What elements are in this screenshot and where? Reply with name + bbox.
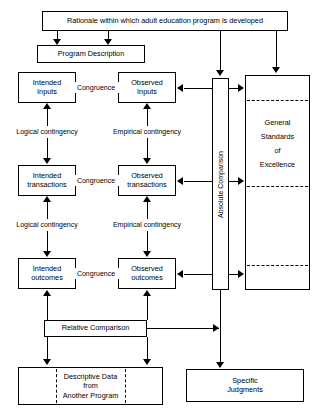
node-program-description: Program Description [37,45,145,63]
arrowhead-intended-transactions-up [43,196,51,202]
arrowhead-observed-transactions-down [143,158,151,164]
node-observed-transactions: Observed transactions [118,165,176,196]
node-relative-comparison-label: Relative Comparison [62,324,130,332]
node-observed-outcomes-line2: outcomes [131,274,163,282]
label-congruence-3-text: Congruence [77,270,115,277]
label-logical-contingency-2: Logical contingency [8,219,86,230]
node-intended-inputs-line2: Inputs [37,88,57,96]
node-intended-outcomes-line2: outcomes [31,274,63,282]
node-observed-transactions-line2: transactions [127,181,166,189]
node-general-standards-line4: Excellence [260,161,295,169]
label-empirical-contingency-1: Empirical contingency [106,126,188,137]
node-absolute-comparison: Absolute Comparison [212,78,229,290]
label-logical-contingency-2-text: Logical contingency [16,221,78,228]
node-intended-transactions-line2: transactions [27,181,66,189]
node-observed-inputs: Observed Inputs [118,72,176,103]
arrowhead-observed-inputs-left [177,84,183,92]
node-descriptive-data-text: Descriptive Data from Another Program [18,367,163,405]
label-empirical-contingency-2-text: Empirical contingency [113,221,181,228]
label-logical-contingency-1-text: Logical contingency [16,128,78,135]
node-descriptive-data-line1: Descriptive Data [64,372,118,381]
label-congruence-1-text: Congruence [77,84,115,91]
edge-observed-outcomes-down [147,231,148,251]
arrowhead-relative-to-observed-outcomes [143,290,151,296]
arrowhead-intended-transactions-down [43,158,51,164]
node-program-description-label: Program Description [58,50,125,58]
arrowhead-relative-to-intended-outcomes [43,290,51,296]
edge-relative-to-observed-outcomes [147,296,148,320]
label-logical-contingency-1: Logical contingency [8,126,86,137]
node-intended-outcomes: Intended outcomes [18,258,76,289]
arrowhead-specific-judgments [216,362,224,368]
node-general-standards-line1: General [265,119,291,127]
diagram-canvas: Rationale within which adult education p… [0,0,321,417]
arrowhead-observed-inputs-up [143,103,151,109]
node-general-standards-line2: Standards [261,133,294,141]
edge-absolute-to-judgments [220,290,221,363]
edge-relative-to-descriptive-b [147,337,148,360]
label-congruence-1: Congruence [70,82,122,93]
node-rationale-label: Rationale within which adult education p… [67,17,263,25]
node-descriptive-data-line3: Another Program [63,391,119,400]
arrowhead-standards-row1 [238,84,244,92]
arrowhead-descriptive-b [143,359,151,365]
descriptive-divider-right [125,369,126,403]
node-intended-inputs: Intended Inputs [18,72,76,103]
label-empirical-contingency-2: Empirical contingency [106,219,188,230]
arrowhead-descriptive-a [43,359,51,365]
arrowhead-observed-transactions-left [177,177,183,185]
edge-relative-to-intended-outcomes [47,296,48,320]
node-intended-transactions: Intended transactions [18,165,76,196]
descriptive-divider-left [56,369,57,403]
arrowhead-observed-outcomes-down [143,251,151,257]
arrowhead-absolute-top [216,70,224,76]
arrowhead-standards-row2 [238,177,244,185]
label-congruence-2-text: Congruence [77,177,115,184]
edge-relative-to-judgments [147,328,219,329]
edge-absolute-to-observed-inputs [184,88,212,89]
arrowhead-standards-top [272,67,280,73]
arrowhead-standards-row3 [238,270,244,278]
arrowhead-observed-transactions-up [143,196,151,202]
standards-divider-2 [247,186,308,187]
standards-divider-3 [247,265,308,266]
node-descriptive-data-line2: from [83,381,98,390]
edge-relative-to-descriptive-a [47,337,48,360]
edge-intended-transactions-down [47,138,48,158]
edge-rationale-to-standards [276,31,277,68]
arrowhead-intended-outcomes-down [43,251,51,257]
node-observed-inputs-line2: Inputs [137,88,157,96]
label-congruence-2: Congruence [70,175,122,186]
node-relative-comparison: Relative Comparison [44,320,147,337]
node-specific-judgments-line2: Judgments [227,386,263,394]
node-specific-judgments: Specific Judgments [186,369,304,402]
standards-divider-1 [247,100,308,101]
arrowhead-relative-to-trunk [213,324,219,332]
node-observed-outcomes: Observed outcomes [118,258,176,289]
node-absolute-comparison-label: Absolute Comparison [217,151,225,218]
node-general-standards-line3: of [274,147,280,155]
label-empirical-contingency-1-text: Empirical contingency [113,128,181,135]
node-rationale: Rationale within which adult education p… [42,11,288,31]
node-general-standards-text: General Standards of Excellence [245,108,310,180]
edge-absolute-to-observed-outcomes [184,274,212,275]
edge-intended-outcomes-down [47,231,48,251]
edge-observed-transactions-down [147,138,148,158]
arrowhead-intended-inputs-up [43,103,51,109]
edge-absolute-to-observed-transactions [184,181,212,182]
arrowhead-observed-outcomes-left [177,270,183,278]
edge-rationale-to-absolute [220,31,221,71]
label-congruence-3: Congruence [70,268,122,279]
